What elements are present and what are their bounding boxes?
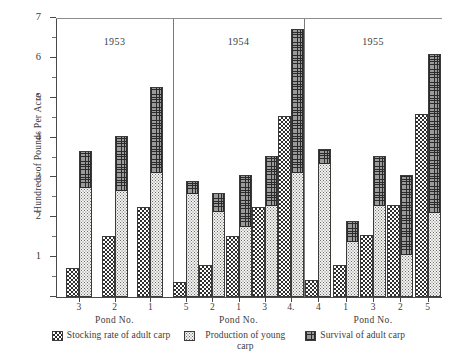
panel-divider xyxy=(173,18,174,297)
y-axis-line xyxy=(56,18,57,297)
bar-stocking-rate xyxy=(333,265,346,297)
bar-stocking-rate xyxy=(199,265,212,297)
bar-production-survival-stack xyxy=(346,221,359,297)
panel-top-rule xyxy=(173,18,304,19)
bar-segment-survival xyxy=(187,182,198,194)
bar-segment-stocking xyxy=(103,237,114,296)
y-tick-minor xyxy=(52,117,56,118)
panel-year-label: 1954 xyxy=(228,36,250,47)
pond-number-label: 3 xyxy=(371,302,376,312)
y-tick-minor xyxy=(52,157,56,158)
bar-segment-production xyxy=(187,194,198,296)
plot-area: 1234567 1953321Pond No.195452134.Pond No… xyxy=(56,18,442,297)
bar-segment-production xyxy=(347,242,358,296)
pond-number-label: 2 xyxy=(398,302,403,312)
bar-production-survival-stack xyxy=(239,175,252,297)
bar-production-survival-stack xyxy=(373,156,386,297)
x-axis-title: Pond No. xyxy=(219,315,258,325)
panel-year-label: 1955 xyxy=(362,36,384,47)
bar-segment-stocking xyxy=(67,269,78,296)
bar-production-survival-stack xyxy=(428,54,441,297)
bar-segment-production xyxy=(292,173,303,296)
bar-segment-production xyxy=(80,188,91,296)
bar-production-survival-stack xyxy=(79,151,92,297)
bar-production-survival-stack xyxy=(318,149,331,297)
bar-stocking-rate xyxy=(278,116,291,297)
legend-swatch-production-icon xyxy=(184,331,195,341)
y-tick-label: 5 xyxy=(36,90,41,103)
bar-segment-survival xyxy=(347,222,358,241)
bar-segment-stocking xyxy=(306,281,317,296)
panel-top-rule xyxy=(304,18,442,19)
y-tick-label: 7 xyxy=(36,10,41,23)
pond-number-label: 4. xyxy=(287,302,294,312)
pond-number-label: 5 xyxy=(184,302,189,312)
legend-item-survival: Survival of adult carp xyxy=(305,330,405,341)
y-tick-major: 5 xyxy=(50,97,56,98)
legend-label-stocking: Stocking rate of adult carp xyxy=(67,330,170,341)
y-tick-major: 3 xyxy=(50,176,56,177)
y-tick-minor xyxy=(52,37,56,38)
bar-stocking-rate xyxy=(226,236,239,297)
bar-stocking-rate xyxy=(415,114,428,297)
bar-stocking-rate xyxy=(360,235,373,297)
bar-segment-stocking xyxy=(138,208,149,296)
pond-number-label: 1 xyxy=(236,302,241,312)
bar-stocking-rate xyxy=(305,280,318,297)
bar-segment-survival xyxy=(80,152,91,188)
bar-production-survival-stack xyxy=(400,175,413,297)
pond-number-label: 3 xyxy=(76,302,81,312)
bar-segment-production xyxy=(240,227,251,296)
chart-legend: Stocking rate of adult carpProduction of… xyxy=(0,330,457,352)
bar-segment-survival xyxy=(429,55,440,213)
bar-segment-stocking xyxy=(334,266,345,296)
bar-stocking-rate xyxy=(66,268,79,297)
bar-segment-stocking xyxy=(361,236,372,296)
pond-number-label: 2 xyxy=(210,302,215,312)
bar-production-survival-stack xyxy=(186,181,199,297)
bar-segment-stocking xyxy=(253,208,264,296)
bar-segment-survival xyxy=(240,176,251,227)
bar-production-survival-stack xyxy=(291,29,304,297)
bar-segment-stocking xyxy=(279,117,290,296)
pond-number-label: 3 xyxy=(262,302,267,312)
x-axis-title: Pond No. xyxy=(95,315,134,325)
bar-production-survival-stack xyxy=(115,136,128,297)
y-tick-label: 4 xyxy=(36,130,41,143)
bar-segment-survival xyxy=(319,150,330,165)
bar-segment-stocking xyxy=(388,206,399,296)
bar-segment-stocking xyxy=(174,283,185,296)
bar-segment-production xyxy=(151,173,162,296)
y-tick-label: 6 xyxy=(36,50,41,63)
bar-stocking-rate xyxy=(137,207,150,297)
y-tick-major: 6 xyxy=(50,57,56,58)
y-tick-major: 1 xyxy=(50,256,56,257)
y-tick-label: 1 xyxy=(36,249,41,262)
y-tick-minor xyxy=(52,77,56,78)
legend-label-production: Production of young carp xyxy=(199,330,291,352)
bar-stocking-rate xyxy=(387,205,400,297)
bar-segment-production xyxy=(213,212,224,296)
bar-segment-survival xyxy=(151,88,162,173)
bar-segment-stocking xyxy=(416,115,427,296)
bar-production-survival-stack xyxy=(212,193,225,297)
bar-stocking-rate xyxy=(252,207,265,297)
bar-production-survival-stack xyxy=(150,87,163,297)
panel-year-label: 1953 xyxy=(104,36,126,47)
y-tick-major: 2 xyxy=(50,216,56,217)
bar-segment-production xyxy=(429,213,440,296)
bar-segment-production xyxy=(266,206,277,296)
y-tick-label: 2 xyxy=(36,209,41,222)
bar-segment-survival xyxy=(116,137,127,191)
y-tick-label: 3 xyxy=(36,169,41,182)
pond-number-label: 4 xyxy=(316,302,321,312)
bar-segment-stocking xyxy=(227,237,238,296)
bar-segment-production xyxy=(374,206,385,296)
bar-segment-survival xyxy=(292,30,303,172)
y-tick-minor xyxy=(52,196,56,197)
pond-number-label: 2 xyxy=(112,302,117,312)
bar-segment-production xyxy=(116,191,127,296)
legend-swatch-survival-icon xyxy=(305,331,316,341)
bar-stocking-rate xyxy=(102,236,115,297)
bar-segment-survival xyxy=(266,157,277,205)
